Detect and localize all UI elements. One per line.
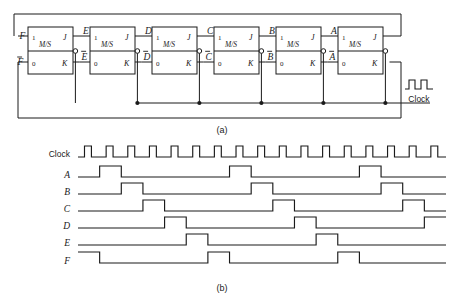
flipflop-A-pin-1: 1 (342, 34, 346, 42)
clock-symbol-label: Clock (408, 94, 430, 104)
clock-bus-dot-4 (321, 101, 325, 105)
flipflop-E-pin-k: K (123, 59, 130, 68)
flipflop-A-pin-0: 0 (342, 60, 346, 68)
signal-B: B (269, 26, 275, 36)
timing-label-a: A (63, 170, 70, 180)
clock-bubble-D (197, 49, 202, 54)
clock-bubble-B (321, 49, 326, 54)
waveform-a (78, 166, 446, 177)
clock-bubble-C (259, 49, 264, 54)
clock-symbol-waveform (405, 80, 433, 89)
flipflop-C-body-label: M/S (224, 40, 237, 49)
caption-a: (a) (217, 125, 228, 135)
flipflop-F-body-label: M/S (38, 40, 51, 49)
signal-Abar: A (329, 52, 336, 62)
figure-root: 1JM/S0K1JM/S0K1JM/S0K1JM/S0K1JM/S0K1JM/S… (0, 0, 460, 301)
waveform-f (78, 252, 446, 263)
flipflop-B-pin-0: 0 (280, 60, 284, 68)
flipflop-D-body-label: M/S (162, 40, 175, 49)
clock-bus-dot-2 (197, 101, 201, 105)
flipflop-D-pin-0: 0 (156, 60, 160, 68)
clock-bubble-A (383, 49, 388, 54)
signal-D: D (144, 26, 152, 36)
flipflop-F-pin-k: K (61, 59, 68, 68)
flipflop-E-pin-1: 1 (94, 34, 98, 42)
flipflop-E-body-label: M/S (100, 40, 113, 49)
clock-bubble-F (73, 49, 78, 54)
clock-bubble-E (135, 49, 140, 54)
signal-F-in: F (19, 31, 26, 41)
flipflop-A-pin-k: K (371, 59, 378, 68)
signal-Dbar: D (143, 52, 151, 62)
flipflop-D-pin-k: K (185, 59, 192, 68)
flipflop-C-pin-j: J (249, 33, 253, 42)
waveform-b (78, 183, 446, 194)
flipflop-B-pin-k: K (309, 59, 316, 68)
timing-label-b: B (64, 187, 70, 197)
waveform-clock (78, 146, 446, 157)
signal-E: E (82, 26, 89, 36)
flipflop-A-body-label: M/S (348, 40, 361, 49)
flipflop-C-pin-k: K (247, 59, 254, 68)
waveform-c (78, 200, 446, 211)
waveform-e (78, 234, 446, 245)
signal-A: A (330, 26, 337, 36)
timing-label-clock: Clock (49, 149, 71, 159)
flipflop-F-pin-j: J (63, 33, 67, 42)
flipflop-E-pin-0: 0 (94, 60, 98, 68)
clock-bus-dot-3 (259, 101, 263, 105)
signal-Cbar: C (206, 52, 213, 62)
flipflop-C-pin-1: 1 (218, 34, 222, 42)
signal-C: C (207, 26, 214, 36)
signal-Ebar: E (81, 52, 88, 62)
flipflop-F-pin-0: 0 (32, 60, 36, 68)
waveform-d (78, 217, 446, 228)
figure-svg: 1JM/S0K1JM/S0K1JM/S0K1JM/S0K1JM/S0K1JM/S… (0, 0, 460, 301)
caption-b: (b) (217, 283, 228, 293)
flipflop-D-pin-1: 1 (156, 34, 160, 42)
flipflop-D-pin-j: J (187, 33, 191, 42)
flipflop-E-pin-j: J (125, 33, 129, 42)
flipflop-B-pin-1: 1 (280, 34, 284, 42)
clock-bus-dot-1 (135, 101, 139, 105)
clock-bus-dot-5 (383, 101, 387, 105)
timing-label-d: D (62, 221, 70, 231)
flipflop-B-body-label: M/S (286, 40, 299, 49)
flipflop-B-pin-j: J (311, 33, 315, 42)
flipflop-F-pin-1: 1 (32, 34, 36, 42)
flipflop-C-pin-0: 0 (218, 60, 222, 68)
timing-label-c: C (64, 204, 71, 214)
signal-Bbar: B (268, 52, 274, 62)
timing-label-f: F (63, 256, 70, 266)
timing-label-e: E (63, 238, 70, 248)
flipflop-A-pin-j: J (373, 33, 377, 42)
